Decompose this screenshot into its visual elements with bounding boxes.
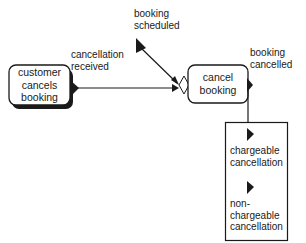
output-triangle-icon [70, 80, 79, 97]
outcome-label-non-chargeable: non- chargeable cancellation [230, 198, 283, 233]
event-label-cancellation-received: cancellation received [71, 49, 124, 72]
arrowhead-icon [171, 76, 179, 85]
arrowhead-icon [172, 84, 179, 92]
event-label-booking-cancelled: booking cancelled [250, 47, 292, 70]
edge-booking-scheduled [140, 47, 177, 83]
customer-box-label: customer cancels booking [9, 66, 70, 104]
event-label-booking-scheduled: booking scheduled [134, 8, 180, 31]
cancel-box-label: cancel booking [188, 71, 248, 96]
outcome-label-chargeable: chargeable cancellation [230, 145, 283, 168]
